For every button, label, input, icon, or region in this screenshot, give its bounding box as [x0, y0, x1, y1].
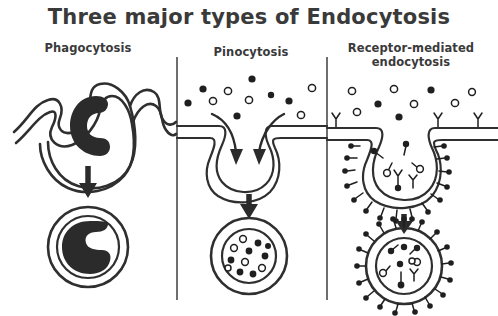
pinocytosis-arrow — [240, 194, 258, 219]
ligand-dot-filled — [427, 86, 434, 93]
solute-dot-hollow — [308, 84, 315, 91]
pinocytosis-vesicle-contents — [225, 236, 271, 278]
pinocytosis-solutes — [184, 75, 315, 119]
solute-dot-hollow — [224, 87, 231, 94]
clathrin-spike — [356, 246, 368, 253]
clathrin-spike — [431, 194, 443, 203]
panel-label-receptor-mediated-line2: endocytosis — [372, 55, 451, 69]
clathrin-spike — [437, 183, 450, 190]
ligand-dot-hollow — [390, 85, 397, 92]
clathrin-spike — [441, 277, 453, 283]
clathrin-spike — [354, 263, 366, 269]
solute-dot-filled — [268, 92, 274, 98]
panel-phagocytosis — [14, 84, 176, 287]
panel-receptor-mediated — [327, 85, 498, 315]
clathrin-spike — [363, 231, 374, 241]
pinocytosis-membrane-inner — [177, 138, 327, 202]
clathrin-spike — [344, 155, 357, 161]
ligand-dot-hollow — [451, 99, 458, 106]
pinocytosis-membrane-outer — [177, 126, 327, 192]
ligand-dot-filled — [395, 113, 402, 120]
clathrin-spike — [363, 291, 374, 301]
clathrin-spike — [344, 182, 357, 189]
solute-dot-filled — [233, 112, 240, 119]
clathrin-spike — [438, 244, 450, 251]
ligand-dot-hollow — [410, 100, 417, 107]
panel-pinocytosis — [177, 75, 327, 294]
phagosome-cargo-particle — [62, 221, 111, 274]
clathrin-spike — [425, 297, 433, 309]
rme-ligands — [348, 85, 475, 120]
phagocytosis-membrane-right-outer — [130, 90, 176, 125]
panel-label-phagocytosis: Phagocytosis — [44, 41, 131, 55]
ligand-dot-hollow — [353, 108, 360, 115]
clathrin-spike — [348, 143, 360, 149]
solute-dot-filled — [285, 97, 292, 104]
solute-dot-hollow — [245, 96, 252, 103]
clathrin-spike — [377, 299, 385, 310]
panel-label-pinocytosis: Pinocytosis — [214, 45, 289, 59]
clathrin-spike — [430, 229, 440, 239]
clathrin-spike — [363, 202, 372, 214]
clathrin-spike — [342, 168, 355, 174]
solute-dot-filled — [248, 75, 255, 82]
ligand-dot-filled — [374, 100, 381, 107]
ligand-dot-hollow — [469, 89, 476, 96]
y-receptor-icon — [434, 113, 442, 128]
clathrin-spike — [376, 221, 384, 233]
phagocytosis-membrane-right-inner — [133, 104, 176, 135]
y-receptor-icon — [474, 113, 482, 128]
rme-vesicle-contents — [380, 244, 421, 289]
ligand-dot-hollow — [348, 87, 355, 94]
solute-dot-filled — [199, 85, 206, 92]
clathrin-spike — [422, 203, 431, 215]
clathrin-spike — [377, 208, 384, 221]
clathrin-spike — [418, 219, 425, 231]
endocytosis-diagram: Three major types of Endocytosis Phagocy… — [0, 0, 498, 316]
clathrin-spike — [412, 303, 418, 315]
solute-dot-hollow — [209, 97, 216, 104]
phagocytosis-vesicle — [48, 207, 128, 287]
clathrin-spike — [442, 260, 454, 266]
clathrin-spike — [356, 279, 368, 286]
solute-dot-hollow — [297, 111, 304, 118]
y-receptor-icon — [332, 113, 340, 128]
panel-label-receptor-mediated-line1: Receptor-mediated — [348, 41, 474, 55]
page-title: Three major types of Endocytosis — [48, 5, 450, 29]
pinocytosis-vesicle — [211, 218, 287, 294]
phagocytosis-arrow — [79, 166, 97, 198]
solute-dot-filled — [184, 99, 191, 106]
clathrin-spike — [392, 304, 398, 316]
clathrin-spike — [351, 193, 363, 203]
clathrin-spike — [435, 289, 446, 298]
phagocytosis-cargo-particle — [70, 96, 110, 156]
clathrin-spike — [409, 209, 415, 222]
